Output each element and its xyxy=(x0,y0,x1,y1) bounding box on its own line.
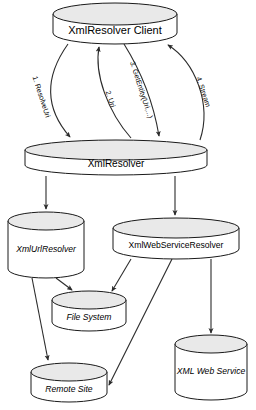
node-resolver-label: XmlResolver xyxy=(88,158,145,169)
node-webservice[interactable]: XML Web Service xyxy=(175,335,247,400)
node-wsresolver-top xyxy=(113,218,239,238)
node-wsresolver-label: XmlWebServiceResolver xyxy=(129,240,224,250)
node-filesystem[interactable]: File System xyxy=(52,291,126,331)
node-webservice-top xyxy=(175,335,247,353)
node-urlresolver-top xyxy=(8,212,84,230)
edge-uri xyxy=(98,47,131,138)
edge-urlresolver-to-filesystem xyxy=(56,278,72,290)
node-client-label: XmlResolver Client xyxy=(68,24,162,36)
node-urlresolver[interactable]: XmlUrlResolver xyxy=(8,212,84,278)
diagram-canvas: 1. ResolveUri 2. Uri 3. GetEntity(Uri,..… xyxy=(0,0,256,410)
node-client-top xyxy=(53,3,177,25)
edge-wsresolver-to-filesystem xyxy=(112,259,131,291)
edge-resolve-uri xyxy=(51,44,70,137)
node-wsresolver[interactable]: XmlWebServiceResolver xyxy=(113,218,239,259)
edge-label-group: 1. ResolveUri 2. Uri 3. GetEntity(Uri,..… xyxy=(31,60,213,119)
node-webservice-label: XML Web Service xyxy=(176,366,246,376)
node-filesystem-label: File System xyxy=(67,312,112,322)
edge-label-get-entity: 3. GetEntity(Uri,...) xyxy=(128,60,155,119)
node-remotesite-label: Remote Site xyxy=(45,384,93,394)
edge-label-resolve-uri: 1. ResolveUri xyxy=(31,75,53,119)
edge-label-uri: 2. Uri xyxy=(104,89,118,108)
diagram-svg: 1. ResolveUri 2. Uri 3. GetEntity(Uri,..… xyxy=(0,0,256,410)
node-remotesite-top xyxy=(31,363,107,381)
node-filesystem-top xyxy=(52,291,126,309)
node-client[interactable]: XmlResolver Client xyxy=(53,3,177,44)
edge-stream xyxy=(168,45,204,140)
node-remotesite[interactable]: Remote Site xyxy=(31,363,107,402)
edge-label-stream: 4. Stream xyxy=(194,76,212,108)
node-resolver[interactable]: XmlResolver xyxy=(25,140,207,175)
edge-urlresolver-to-remotesite xyxy=(32,278,48,360)
node-urlresolver-label: XmlUrlResolver xyxy=(15,244,77,254)
